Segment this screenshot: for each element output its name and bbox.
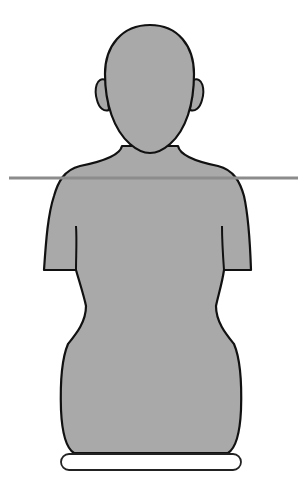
- seat-base: [61, 454, 241, 470]
- head-silhouette: [105, 25, 194, 153]
- torso-silhouette: [44, 146, 251, 453]
- seated-figure-illustration: [0, 0, 305, 477]
- figure-canvas: [0, 0, 305, 477]
